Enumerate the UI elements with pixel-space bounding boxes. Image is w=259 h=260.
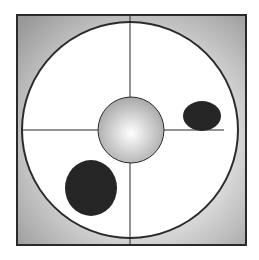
center-sphere	[98, 97, 164, 163]
small-ellipse	[183, 101, 221, 131]
target-diagram	[0, 0, 259, 260]
large-ellipse	[65, 160, 117, 216]
